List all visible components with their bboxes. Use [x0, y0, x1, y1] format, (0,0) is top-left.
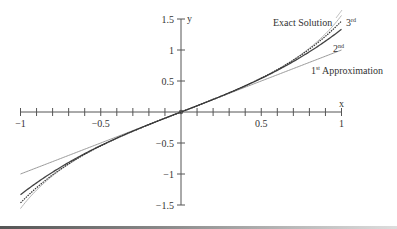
label-first-approximation: 1st Approximation: [311, 65, 383, 76]
x-tick-label: 1: [339, 118, 344, 129]
chart-plot: −1−0.50.511.510.5−0.5−1−1.5 x y Exact So…: [0, 0, 397, 229]
y-tick-label: −1: [163, 169, 174, 180]
label-third: 3rd: [346, 17, 356, 28]
label-exact-solution: Exact Solution: [273, 17, 332, 28]
x-tick-label: 0.5: [255, 118, 268, 129]
x-tick-label: −1: [15, 118, 26, 129]
y-tick-label: 1: [169, 45, 174, 56]
label-second-sup: nd: [338, 43, 344, 49]
label-third-sup: rd: [351, 17, 356, 23]
y-tick-label: 1.5: [162, 14, 175, 25]
x-axis-label: x: [339, 98, 344, 109]
y-axis-label: y: [187, 13, 192, 24]
exact-label-leader: [336, 10, 342, 18]
x-tick-label: −0.5: [92, 118, 110, 129]
y-tick-label: 0.5: [162, 76, 175, 87]
curve-labels: x y Exact Solution 3rd 2nd 1st Approxima…: [187, 13, 383, 109]
y-tick-label: −1.5: [156, 200, 174, 211]
label-first-rest: Approximation: [320, 65, 383, 76]
label-second: 2nd: [333, 43, 344, 54]
y-tick-label: −0.5: [156, 138, 174, 149]
bottom-border: [0, 226, 397, 229]
